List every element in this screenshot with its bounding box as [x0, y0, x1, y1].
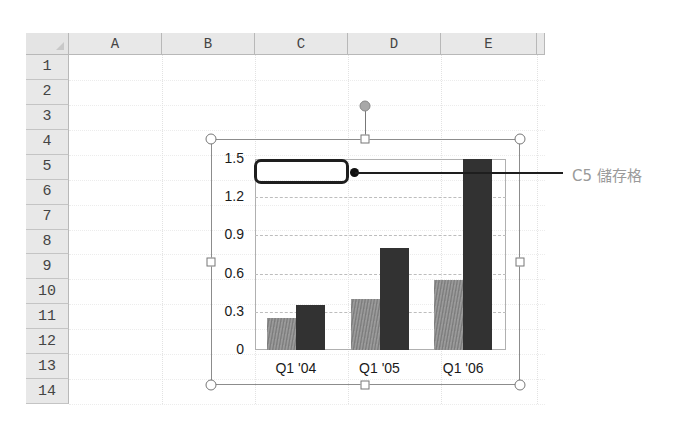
y-axis-tick-label: 0.3	[204, 303, 244, 319]
row-header-13[interactable]: 13	[26, 354, 69, 379]
x-axis-category-label: Q1 '04	[256, 360, 336, 376]
bar-series-1-0[interactable]	[267, 318, 296, 350]
rotation-stem	[365, 111, 366, 135]
row-header-3[interactable]: 3	[26, 105, 69, 130]
callout-highlight-box	[254, 159, 349, 184]
row-header-4[interactable]: 4	[26, 130, 69, 155]
resize-handle-bottom-right[interactable]	[515, 380, 526, 391]
column-header-b[interactable]: B	[162, 33, 255, 55]
y-axis-tick-label: 0.9	[204, 226, 244, 242]
row-header-10[interactable]: 10	[26, 279, 69, 304]
row-header-12[interactable]: 12	[26, 329, 69, 354]
row-header-2[interactable]: 2	[26, 80, 69, 105]
row-header-1[interactable]: 1	[26, 55, 69, 80]
bar-series-2-1[interactable]	[380, 248, 409, 350]
column-header-c[interactable]: C	[255, 33, 348, 55]
x-axis-category-label: Q1 '05	[340, 360, 420, 376]
row-header-6[interactable]: 6	[26, 180, 69, 205]
x-axis-category-label: Q1 '06	[423, 360, 503, 376]
row-header-8[interactable]: 8	[26, 230, 69, 255]
row-header-14[interactable]: 14	[26, 379, 69, 404]
column-header-partial[interactable]	[537, 33, 545, 55]
row-header-9[interactable]: 9	[26, 254, 69, 279]
y-axis-tick-label: 0	[204, 341, 244, 357]
row-header-7[interactable]: 7	[26, 205, 69, 230]
column-gridline	[537, 55, 538, 404]
resize-handle-top[interactable]	[361, 135, 370, 144]
row-gridline	[69, 404, 545, 405]
bar-series-2-0[interactable]	[296, 305, 325, 350]
y-axis-tick-label: 1.5	[204, 150, 244, 166]
row-header-5[interactable]: 5	[26, 155, 69, 180]
resize-handle-right[interactable]	[516, 258, 525, 267]
callout-label: C5 儲存格	[572, 164, 642, 185]
y-axis-tick-label: 0.6	[204, 265, 244, 281]
y-axis-tick-label: 1.2	[204, 188, 244, 204]
column-header-a[interactable]: A	[69, 33, 162, 55]
callout-leader-line	[355, 172, 563, 174]
row-gridline	[69, 130, 545, 131]
resize-handle-bottom-left[interactable]	[206, 380, 217, 391]
resize-handle-top-right[interactable]	[515, 134, 526, 145]
row-gridline	[69, 80, 545, 81]
column-header-e[interactable]: E	[441, 33, 537, 55]
bar-series-1-2[interactable]	[434, 280, 463, 350]
column-gridline	[162, 55, 163, 404]
select-all-corner[interactable]	[26, 33, 69, 55]
bar-series-2-2[interactable]	[463, 159, 492, 350]
row-gridline	[69, 105, 545, 106]
bar-series-1-1[interactable]	[351, 299, 380, 350]
rotation-handle[interactable]	[360, 101, 371, 112]
resize-handle-top-left[interactable]	[206, 134, 217, 145]
row-header-11[interactable]: 11	[26, 304, 69, 329]
column-header-d[interactable]: D	[348, 33, 441, 55]
resize-handle-bottom[interactable]	[361, 381, 370, 390]
